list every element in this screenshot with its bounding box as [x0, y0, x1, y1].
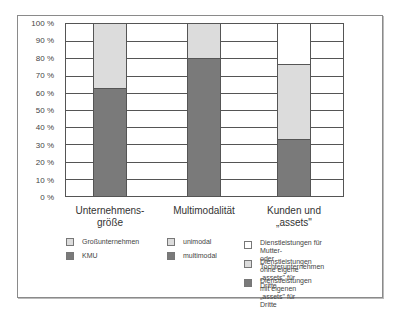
category-label-unternehmensgroesse: Unternehmens- größe: [68, 205, 152, 229]
bar-segment: [278, 139, 310, 196]
legend-item-unimodal: unimodal: [167, 238, 211, 246]
y-tick-label: 10 %: [24, 177, 54, 185]
legend-item-grossunternehmen: Großunternehmen: [66, 238, 139, 246]
bar-3: [277, 24, 311, 196]
bar-2: [187, 24, 221, 196]
y-tick-label: 90 %: [24, 37, 54, 45]
bar-segment: [188, 58, 220, 196]
legend-swatch-icon: [66, 252, 74, 260]
y-tick-label: 50 %: [24, 107, 54, 115]
y-tick-label: 80 %: [24, 55, 54, 63]
legend-label: Dienstleistungen mit eigenen „assets" fü…: [260, 277, 312, 309]
bar-segment: [278, 24, 310, 64]
y-tick-label: 0 %: [24, 194, 54, 202]
legend-swatch-icon: [244, 260, 252, 268]
bar-segment: [188, 24, 220, 58]
legend-swatch-icon: [244, 241, 252, 249]
category-label-kunden-assets: Kunden und „assets": [252, 205, 336, 229]
y-tick-label: 20 %: [24, 159, 54, 167]
legend-item-multimodal: multimodal: [167, 252, 217, 260]
legend-swatch-icon: [167, 252, 175, 260]
legend-swatch-icon: [244, 279, 252, 287]
legend-label: KMU: [82, 252, 98, 260]
y-tick-label: 40 %: [24, 124, 54, 132]
category-label-multimodalitaet: Multimodalität: [160, 205, 248, 217]
legend-label: multimodal: [183, 252, 217, 260]
bar-segment: [94, 24, 126, 88]
plot-area: [65, 23, 344, 197]
y-tick-label: 70 %: [24, 72, 54, 80]
bar-segment: [278, 64, 310, 140]
bar-segment: [94, 88, 126, 196]
legend-label: unimodal: [183, 238, 211, 246]
y-tick-label: 60 %: [24, 90, 54, 98]
y-tick-label: 30 %: [24, 142, 54, 150]
legend-item-mit-assets: Dienstleistungen mit eigenen „assets" fü…: [244, 277, 312, 309]
bar-1: [93, 24, 127, 196]
legend-swatch-icon: [66, 238, 74, 246]
legend-swatch-icon: [167, 238, 175, 246]
legend-label: Großunternehmen: [82, 238, 139, 246]
legend-item-kmu: KMU: [66, 252, 98, 260]
y-tick-label: 100 %: [24, 20, 54, 28]
